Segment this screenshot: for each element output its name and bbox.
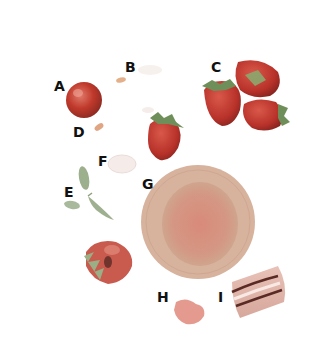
object-b-seed [116, 65, 162, 84]
diagram-canvas: A B C D E F G H I [0, 0, 323, 348]
object-f-faint-oval [108, 155, 136, 173]
label-g: G [142, 177, 154, 191]
label-i: I [218, 290, 223, 304]
object-h-blob [174, 299, 204, 324]
label-c: C [211, 60, 221, 74]
object-i-striped-slice [232, 266, 285, 318]
label-h: H [157, 290, 169, 304]
label-a: A [54, 79, 65, 93]
object-d-seed [93, 122, 104, 132]
object-g-disc [141, 165, 255, 279]
object-strawberry-cut [84, 241, 132, 284]
label-f: F [98, 154, 108, 168]
label-d: D [73, 125, 85, 139]
object-a-sphere [66, 82, 102, 118]
object-strawberry-whole [142, 107, 184, 160]
label-e: E [64, 185, 74, 199]
label-b: B [125, 60, 136, 74]
